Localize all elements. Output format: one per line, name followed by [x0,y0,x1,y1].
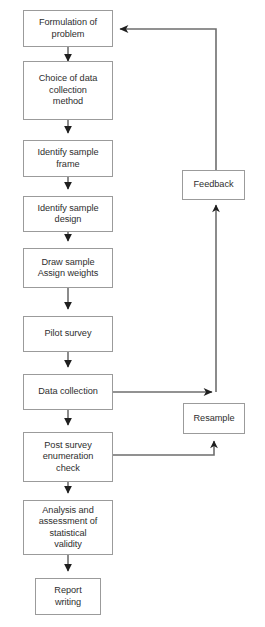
flowchart-canvas: Formulation of problem Choice of data co… [0,0,265,627]
connector-postsurvey-to-resample [113,441,214,455]
node-formulation[interactable]: Formulation of problem [23,10,113,47]
node-post-survey-enumeration-check[interactable]: Post survey enumeration check [23,432,113,482]
node-label: Data collection [35,386,101,397]
node-analysis-and-assessment[interactable]: Analysis and assessment of statistical v… [23,500,113,555]
node-identify-sample-frame[interactable]: Identify sample frame [23,140,113,177]
node-label: Identify sample frame [34,147,101,170]
node-label: Post survey enumeration check [40,440,97,474]
node-label: Pilot survey [42,328,95,339]
node-label: Report writing [51,585,84,608]
node-feedback[interactable]: Feedback [182,170,245,200]
connector-feedback-to-formulation [120,29,216,170]
node-draw-sample-assign-weights[interactable]: Draw sample Assign weights [23,248,113,288]
node-choice-of-data-collection-method[interactable]: Choice of data collection method [23,61,113,120]
node-identify-sample-design[interactable]: Identify sample design [23,196,113,232]
node-label: Feedback [191,179,237,190]
node-resample[interactable]: Resample [183,403,245,434]
node-label: Analysis and assessment of statistical v… [36,505,101,551]
node-label: Resample [191,413,238,424]
node-label: Identify sample design [34,203,101,226]
node-label: Formulation of problem [36,17,100,40]
node-report-writing[interactable]: Report writing [35,578,101,615]
node-label: Draw sample Assign weights [35,257,102,280]
node-label: Choice of data collection method [36,73,101,107]
node-data-collection[interactable]: Data collection [23,374,113,410]
node-pilot-survey[interactable]: Pilot survey [23,316,113,352]
